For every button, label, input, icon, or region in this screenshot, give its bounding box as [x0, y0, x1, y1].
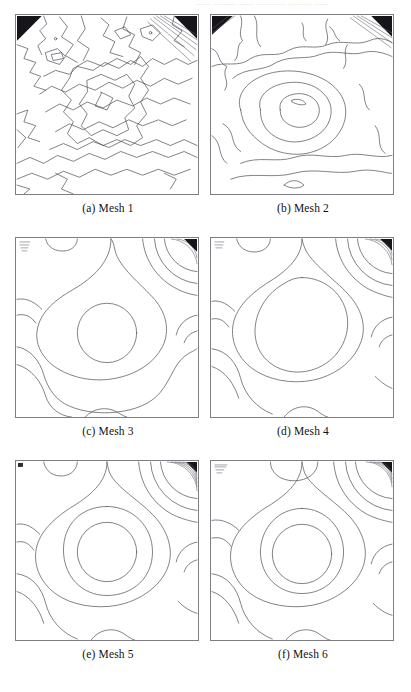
- panel-caption-mesh-3: (c) Mesh 3: [15, 425, 201, 437]
- figure-row-3: (e) Mesh 5: [0, 460, 411, 683]
- contour-plot-mesh-5: [15, 460, 199, 641]
- contour-plot-mesh-3: [15, 237, 199, 418]
- contour-plot-mesh-2: [210, 14, 394, 195]
- figure-page: —— ——— —— ———— ——— ——: [0, 0, 411, 692]
- figure-panel-mesh-1: (a) Mesh 1: [15, 14, 201, 214]
- contour-plot-mesh-6: [210, 460, 394, 641]
- contour-plot-mesh-1: [15, 14, 199, 195]
- figure-panel-mesh-4: (d) Mesh 4: [210, 237, 396, 437]
- panel-caption-mesh-4: (d) Mesh 4: [210, 425, 396, 437]
- panel-caption-mesh-1: (a) Mesh 1: [15, 202, 201, 214]
- figure-panel-mesh-6: (f) Mesh 6: [210, 460, 396, 660]
- running-header: —— ——— —— ———— ——— ——: [196, 1, 409, 8]
- panel-caption-mesh-5: (e) Mesh 5: [15, 648, 201, 660]
- figure-row-1: (a) Mesh 1: [0, 14, 411, 237]
- figure-grid: (a) Mesh 1: [0, 14, 411, 683]
- figure-row-2: (c) Mesh 3: [0, 237, 411, 460]
- panel-caption-mesh-2: (b) Mesh 2: [210, 202, 396, 214]
- figure-panel-mesh-3: (c) Mesh 3: [15, 237, 201, 437]
- panel-caption-mesh-6: (f) Mesh 6: [210, 648, 396, 660]
- figure-panel-mesh-5: (e) Mesh 5: [15, 460, 201, 660]
- figure-panel-mesh-2: (b) Mesh 2: [210, 14, 396, 214]
- contour-plot-mesh-4: [210, 237, 394, 418]
